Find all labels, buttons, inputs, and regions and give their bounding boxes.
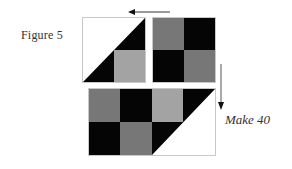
patch-cell-medium: [89, 89, 120, 122]
hst-triangle-icon: [152, 89, 215, 155]
patch-cell-medium: [120, 122, 152, 155]
patch-cell-dark: [184, 18, 215, 50]
patch-cell-dark: [153, 50, 184, 82]
combined-unit: [88, 88, 216, 156]
hst-unit: [82, 17, 146, 83]
arrow-down-icon: [216, 64, 226, 110]
make-count-label: Make 40: [225, 112, 270, 128]
patch-cell-dark: [89, 122, 120, 155]
patch-cell-medium: [184, 50, 215, 82]
arrow-left-icon: [128, 7, 172, 17]
four-patch-unit: [152, 17, 216, 83]
hst-triangle-icon: [83, 18, 145, 82]
patch-cell-dark: [120, 89, 152, 122]
figure-label: Figure 5: [21, 28, 63, 43]
patch-cell-medium: [153, 18, 184, 50]
